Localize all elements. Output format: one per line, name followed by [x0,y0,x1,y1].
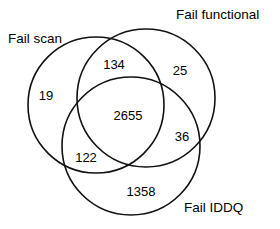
set-label-fail-scan: Fail scan [8,31,62,46]
count-functional-only: 25 [173,63,187,78]
set-label-fail-functional: Fail functional [176,7,259,22]
set-label-fail-iddq: Fail IDDQ [184,200,243,215]
count-scan-functional: 134 [103,57,125,72]
count-iddq-only: 1358 [127,184,156,199]
venn-diagram: Fail scan Fail functional Fail IDDQ 19 1… [0,0,280,229]
count-scan-only: 19 [39,88,53,103]
count-scan-iddq: 122 [75,150,97,165]
circle-fail-functional [77,29,215,167]
count-functional-iddq: 36 [175,129,189,144]
count-all-three: 2655 [114,108,143,123]
